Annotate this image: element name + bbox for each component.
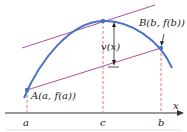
point-a [25,88,29,92]
function-curve [24,21,172,98]
b-pointer-arrow-icon [160,41,164,46]
tick-label-a: a [23,117,29,128]
label-b-point: B(b, f(b)) [138,17,185,28]
secant-line [27,48,161,90]
tangent-line [22,5,155,48]
tick-label-b: b [158,117,164,128]
tick-label-c: c [100,117,106,128]
point-c [101,19,105,23]
point-b [159,46,163,50]
label-a-point: A(a, f(a)) [30,90,76,101]
label-x-axis: x [173,100,179,111]
label-v: v(x) [101,41,120,52]
mvt-diagram: A(a, f(a)) B(b, f(b)) v(x) x a c b [0,0,187,132]
